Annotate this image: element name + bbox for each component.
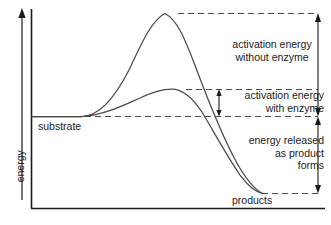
products-label: products	[232, 194, 272, 207]
substrate-label: substrate	[38, 120, 81, 133]
activation-energy-with-enzyme-label: activation energy with enzyme	[224, 89, 324, 114]
enzyme-energy-diagram: energy substrate products activation ene…	[0, 0, 331, 225]
energy-released-label: energy released as product forms	[216, 134, 324, 172]
y-axis-label: energy	[14, 136, 27, 196]
arrow-activation-energy-with-enzyme	[216, 89, 221, 117]
activation-energy-without-enzyme-label: activation energy without enzyme	[222, 38, 322, 63]
